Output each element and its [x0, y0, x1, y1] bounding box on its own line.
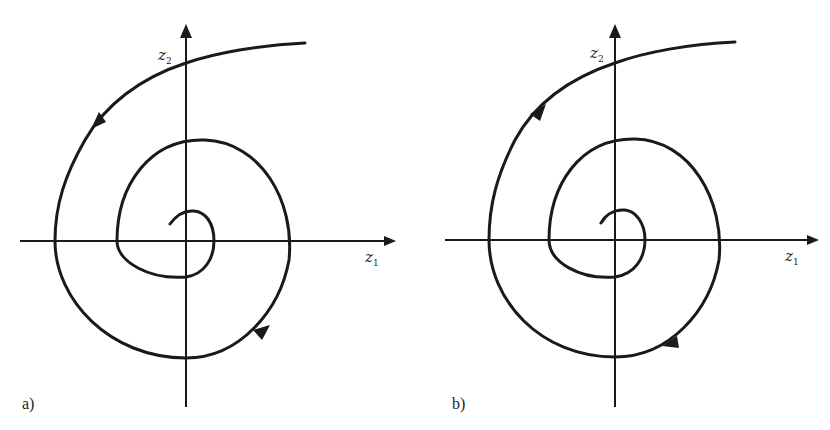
z2-label-b: z2 — [589, 44, 604, 64]
panel-label-a: a) — [22, 395, 34, 413]
spiral-trajectory-a — [55, 43, 305, 358]
panel-b: z2 z1 b) — [445, 24, 819, 413]
phase-portrait-figure: z2 z1 a) z2 z1 b) — [0, 0, 830, 430]
panel-a: z2 z1 a) — [20, 24, 396, 413]
z1-axis-arrow-icon — [384, 236, 396, 246]
z2-axis-arrow-icon — [609, 24, 621, 38]
trajectory-arrow-icon — [530, 104, 546, 121]
z1-label-a: z1 — [364, 248, 379, 268]
z2-label-a: z2 — [157, 46, 172, 66]
panel-label-b: b) — [452, 395, 465, 413]
z1-axis-arrow-icon — [807, 235, 819, 245]
z1-label-b: z1 — [784, 247, 799, 267]
z2-axis-arrow-icon — [180, 24, 192, 38]
spiral-trajectory-b — [489, 42, 735, 357]
